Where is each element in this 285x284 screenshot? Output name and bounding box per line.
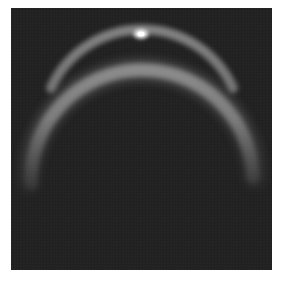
- highlight-core: [138, 32, 145, 37]
- image-frame: [11, 8, 272, 270]
- dark-background: [11, 8, 272, 270]
- image-canvas: [0, 0, 285, 284]
- crescent-arc-image: [11, 8, 272, 270]
